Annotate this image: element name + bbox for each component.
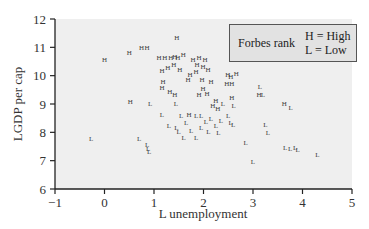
data-point-high: H	[128, 98, 133, 106]
x-tick-label: 4	[299, 195, 306, 210]
y-axis-ticks: 6789101112	[33, 12, 55, 197]
data-point-low: L	[219, 117, 223, 125]
data-point-low: L	[184, 119, 188, 127]
data-point-low: L	[199, 124, 203, 132]
data-point-low: L	[147, 148, 151, 156]
data-point-high: H	[159, 67, 164, 75]
data-point-high: H	[234, 70, 239, 78]
x-tick-label: 1	[151, 195, 158, 210]
data-point-low: L	[204, 118, 208, 126]
data-point-high: H	[186, 76, 191, 84]
data-point-low: L	[167, 122, 171, 130]
data-point-high: H	[197, 91, 202, 99]
data-point-high: H	[215, 105, 220, 113]
data-point-high: H	[282, 100, 287, 108]
x-tick-label: 5	[349, 195, 356, 210]
data-point-low: L	[231, 121, 235, 129]
y-tick-label: 7	[40, 153, 47, 168]
data-point-high: H	[181, 51, 186, 59]
data-point-low: L	[179, 112, 183, 120]
data-point-low: L	[206, 128, 210, 136]
x-tick-label: 3	[250, 195, 257, 210]
data-point-low: L	[288, 104, 292, 112]
data-point-high: H	[177, 66, 182, 74]
data-point-low: L	[266, 129, 270, 137]
x-tick-label: 0	[101, 195, 108, 210]
data-point-low: L	[148, 100, 152, 108]
data-point-high: H	[187, 111, 192, 119]
data-point-high: H	[171, 61, 176, 69]
data-point-low: L	[261, 91, 265, 99]
x-axis-title: L unemployment	[159, 206, 248, 221]
y-tick-label: 9	[40, 97, 47, 112]
data-point-high: H	[208, 78, 213, 86]
data-point-low: L	[283, 144, 287, 152]
data-point-low: L	[315, 151, 319, 159]
data-point-high: H	[145, 44, 150, 52]
data-point-high: H	[204, 90, 209, 98]
data-point-low: L	[209, 115, 213, 123]
data-point-high: H	[165, 64, 170, 72]
data-point-high: H	[102, 56, 107, 64]
x-tick-label: −1	[48, 195, 62, 210]
data-point-low: L	[160, 111, 164, 119]
y-tick-label: 10	[33, 68, 46, 83]
data-point-low: L	[295, 146, 299, 154]
data-point-low: L	[288, 145, 292, 153]
data-point-high: H	[229, 94, 234, 102]
legend-title: Forbes rank	[238, 36, 295, 51]
data-point-high: H	[174, 34, 179, 42]
data-point-low: L	[89, 135, 93, 143]
data-point-high: H	[162, 54, 167, 62]
legend-box: Forbes rank H = High L = Low	[229, 24, 357, 62]
data-point-low: L	[199, 112, 203, 120]
data-point-high: H	[199, 76, 204, 84]
y-tick-label: 12	[33, 12, 46, 27]
data-point-high: H	[127, 49, 132, 57]
data-point-low: L	[182, 134, 186, 142]
data-point-low: L	[232, 102, 236, 110]
data-point-low: L	[263, 121, 267, 129]
data-point-low: L	[251, 158, 255, 166]
data-point-high: H	[229, 80, 234, 88]
y-tick-label: 6	[40, 182, 47, 197]
data-point-low: L	[174, 124, 178, 132]
data-point-low: L	[258, 83, 262, 91]
y-tick-label: 11	[33, 40, 46, 55]
y-axis-title: LGDP per cap	[10, 67, 25, 142]
data-point-high: H	[159, 84, 164, 92]
data-point-low: L	[243, 139, 247, 147]
data-point-low: L	[174, 100, 178, 108]
data-point-high: H	[172, 91, 177, 99]
data-point-low: L	[137, 135, 141, 143]
y-tick-label: 8	[40, 125, 47, 140]
data-point-low: L	[194, 112, 198, 120]
legend-entry-low: L = Low	[305, 43, 350, 57]
data-point-low: L	[216, 129, 220, 137]
data-point-high: H	[213, 97, 218, 105]
data-point-high: H	[205, 66, 210, 74]
data-point-low: L	[214, 122, 218, 130]
data-point-low: L	[221, 100, 225, 108]
data-point-high: H	[194, 68, 199, 76]
data-point-low: L	[189, 127, 193, 135]
data-point-high: H	[156, 54, 161, 62]
legend-entry-high: H = High	[305, 29, 350, 43]
data-point-high: H	[139, 44, 144, 52]
data-point-low: L	[194, 134, 198, 142]
